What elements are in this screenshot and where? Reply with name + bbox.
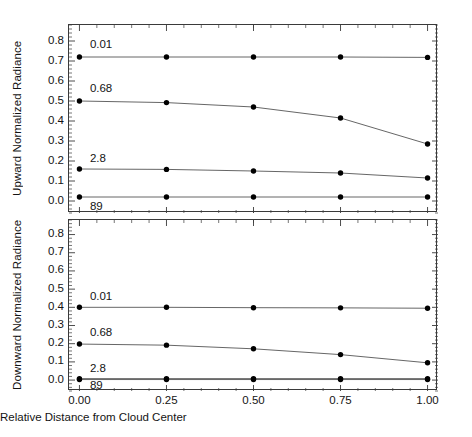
series-label-89: 89 <box>90 379 103 391</box>
y-tick-label: 0.5 <box>28 282 64 294</box>
y-tick-label: 0.1 <box>28 174 64 186</box>
series-label-2.8: 2.8 <box>90 362 106 374</box>
y-tick-label: 0.3 <box>28 134 64 146</box>
y-tick-label: 0.2 <box>28 336 64 348</box>
y-tick-label: 0.7 <box>28 245 64 257</box>
top-panel-y-axis-label: Upward Normalized Radiance <box>6 24 28 212</box>
x-tick-label: 0.50 <box>224 394 284 406</box>
y-tick-label: 0.3 <box>28 318 64 330</box>
y-tick-label: 0.2 <box>28 154 64 166</box>
y-tick-label: 0.8 <box>28 227 64 239</box>
y-tick-label: 0.1 <box>28 354 64 366</box>
series-label-89: 89 <box>90 200 103 212</box>
series-label-2.8: 2.8 <box>90 152 106 164</box>
series-label-0.68: 0.68 <box>90 82 112 94</box>
y-tick-label: 0.6 <box>28 74 64 86</box>
series-label-0.01: 0.01 <box>90 38 112 50</box>
y-tick-label: 0.5 <box>28 94 64 106</box>
x-tick-label: 0.25 <box>136 394 196 406</box>
y-tick-label: 0.4 <box>28 114 64 126</box>
y-tick-label: 0.7 <box>28 54 64 66</box>
bottom-panel-axis-ticks <box>68 219 439 392</box>
x-tick-label: 0.00 <box>49 394 109 406</box>
top-panel-axis-ticks <box>68 24 439 214</box>
x-tick-label: 0.75 <box>311 394 371 406</box>
y-tick-label: 0.4 <box>28 300 64 312</box>
y-tick-label: 0.0 <box>28 194 64 206</box>
series-label-0.01: 0.01 <box>90 290 112 302</box>
bottom-panel-y-axis-label: Downward Normalized Radiance <box>6 219 28 390</box>
y-tick-label: 0.0 <box>28 373 64 385</box>
series-label-0.68: 0.68 <box>90 326 112 338</box>
figure-root: Upward Normalized Radiance 0.00.10.20.30… <box>0 0 472 437</box>
y-tick-label: 0.8 <box>28 34 64 46</box>
x-tick-label: 1.00 <box>398 394 458 406</box>
y-tick-label: 0.6 <box>28 263 64 275</box>
